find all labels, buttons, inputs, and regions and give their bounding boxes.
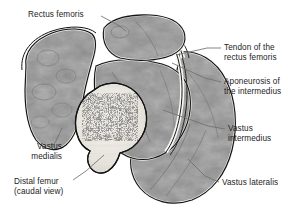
label-tendon-of-the-rectus-femoris: Tendon of the rectus femoris: [224, 43, 277, 62]
label-vastus-intermedius: Vastus intermedius: [228, 124, 271, 143]
label-rectus-femoris: Rectus femoris: [28, 10, 84, 20]
label-vastus-lateralis: Vastus lateralis: [222, 178, 278, 188]
label-aponeurosis-of-the-intermedius: Aponeurosis of the intermedius: [224, 77, 281, 96]
label-distal-femur: Distal femur (caudal view): [14, 177, 63, 196]
label-vastus-medialis: Vastus medialis: [10, 142, 62, 161]
